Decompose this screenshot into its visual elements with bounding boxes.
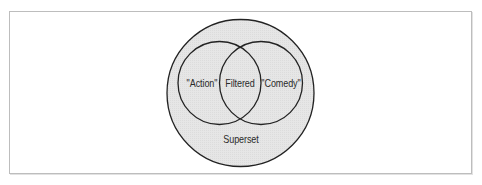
filtered-intersection-label: Filtered [225, 77, 254, 89]
action-set-label: "Action" [187, 77, 218, 89]
superset-label: Superset [223, 133, 258, 145]
comedy-set-label: "Comedy" [261, 77, 300, 89]
venn-diagram [0, 0, 482, 185]
